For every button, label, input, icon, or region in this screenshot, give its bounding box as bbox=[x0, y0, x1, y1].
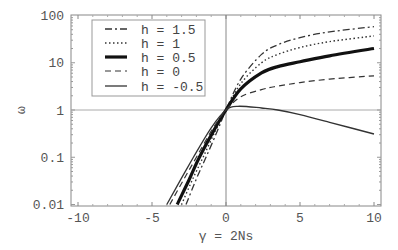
x-tick-label: 10 bbox=[366, 211, 382, 226]
y-tick-label: 0.1 bbox=[41, 151, 65, 166]
legend-label: h = 0 bbox=[141, 65, 180, 80]
x-tick-label: 0 bbox=[222, 211, 230, 226]
y-tick-label: 100 bbox=[41, 9, 64, 24]
legend-label: h = -0.5 bbox=[141, 80, 203, 95]
y-axis-title: ω bbox=[14, 106, 29, 114]
y-tick-labels: 0.010.1110100 bbox=[33, 9, 64, 213]
x-tick-label: -5 bbox=[144, 211, 160, 226]
chart: 0.010.1110100 -10-50510 h = 1.5h = 1h = … bbox=[0, 0, 398, 250]
y-tick-label: 0.01 bbox=[33, 198, 64, 213]
legend-label: h = 1.5 bbox=[141, 23, 196, 38]
x-tick-labels: -10-50510 bbox=[66, 211, 382, 226]
y-tick-label: 1 bbox=[56, 104, 64, 119]
curve-h-1 bbox=[182, 36, 374, 205]
curve-h--0.5 bbox=[167, 106, 374, 204]
legend: h = 1.5h = 1h = 0.5h = 0h = -0.5 bbox=[92, 20, 205, 96]
x-axis-title: γ = 2Ns bbox=[199, 229, 254, 244]
x-tick-label: 5 bbox=[296, 211, 304, 226]
y-tick-label: 10 bbox=[48, 56, 64, 71]
legend-label: h = 0.5 bbox=[141, 51, 196, 66]
legend-label: h = 1 bbox=[141, 37, 180, 52]
x-tick-label: -10 bbox=[66, 211, 89, 226]
